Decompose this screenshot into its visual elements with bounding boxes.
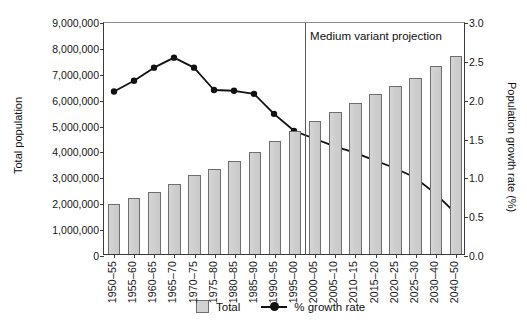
x-axis-tick — [275, 254, 276, 258]
bar-total-population — [309, 121, 321, 254]
y-axis-left-tick — [100, 49, 104, 50]
y-axis-left-tick — [100, 101, 104, 102]
x-axis-tick — [335, 254, 336, 258]
y-axis-left-tick-label: 9,000,000 — [52, 18, 99, 29]
y-axis-left-tick-label: 4,000,000 — [52, 147, 99, 158]
y-axis-right-tick — [464, 217, 468, 218]
x-axis-tick-label: 1985–90 — [248, 261, 259, 303]
x-axis-tick — [456, 254, 457, 258]
bar-total-population — [168, 184, 180, 254]
bar-total-population — [269, 141, 281, 254]
x-axis-tick — [396, 254, 397, 258]
x-axis-tick — [174, 254, 175, 258]
bar-total-population — [188, 175, 200, 254]
y-axis-left-tick-label: 1,000,000 — [52, 225, 99, 236]
x-axis-tick-label: 2040–50 — [449, 261, 460, 303]
x-axis-tick-label: 2010–15 — [348, 261, 359, 303]
bar-total-population — [409, 78, 421, 254]
growth-rate-point — [111, 88, 117, 94]
y-axis-left-tick — [100, 75, 104, 76]
x-axis-tick — [295, 254, 296, 258]
x-axis-tick-label: 1995–00 — [288, 261, 299, 303]
y-axis-right-tick — [464, 140, 468, 141]
x-axis-tick-label: 1960–65 — [147, 261, 158, 303]
x-axis-tick-label: 1950–55 — [107, 261, 118, 303]
x-axis-tick-label: 1955–60 — [127, 261, 138, 303]
x-axis-tick-label: 1975–80 — [208, 261, 219, 303]
x-axis-tick-label: 2025–30 — [409, 261, 420, 303]
y-axis-right-title: Population growth rate (%) — [502, 45, 518, 250]
x-axis-tick-label: 1980–85 — [228, 261, 239, 303]
bar-total-population — [430, 66, 442, 254]
bar-total-population — [450, 56, 462, 254]
growth-rate-point — [171, 54, 177, 60]
y-axis-left-tick-label: 3,000,000 — [52, 173, 99, 184]
growth-rate-point — [211, 87, 217, 93]
x-axis-tick — [235, 254, 236, 258]
bar-total-population — [208, 169, 220, 254]
x-axis-tick — [436, 254, 437, 258]
y-axis-right-tick — [464, 256, 468, 257]
x-axis-tick — [114, 254, 115, 258]
chart-legend: Total % growth rate — [196, 300, 365, 313]
growth-rate-point — [231, 88, 237, 94]
bar-total-population — [389, 86, 401, 254]
bar-total-population — [349, 103, 361, 254]
x-axis-tick-label: 2015–20 — [369, 261, 380, 303]
x-axis-tick — [195, 254, 196, 258]
x-axis-tick — [355, 254, 356, 258]
y-axis-right-tick-label: 0.0 — [469, 251, 484, 262]
projection-divider-line — [305, 23, 306, 254]
x-axis-tick-label: 2000–05 — [308, 261, 319, 303]
bar-total-population — [369, 94, 381, 255]
population-projection-chart: Total population Population growth rate … — [0, 0, 527, 328]
y-axis-left-tick-label: 2,000,000 — [52, 199, 99, 210]
x-axis-tick — [416, 254, 417, 258]
growth-rate-point — [191, 64, 197, 70]
plot-area: 01,000,0002,000,0003,000,0004,000,0005,0… — [103, 22, 465, 255]
x-axis-tick-label: 1990–95 — [268, 261, 279, 303]
y-axis-right-tick-label: 3.0 — [469, 18, 484, 29]
x-axis-tick — [215, 254, 216, 258]
y-axis-left-tick-label: 7,000,000 — [52, 70, 99, 81]
x-axis-tick-label: 2030–40 — [429, 261, 440, 303]
growth-rate-point — [251, 91, 257, 97]
y-axis-left-tick — [100, 178, 104, 179]
growth-rate-point — [131, 78, 137, 84]
y-axis-right-tick-label: 1.5 — [469, 134, 484, 145]
bar-total-population — [329, 112, 341, 254]
bar-total-population — [249, 152, 261, 254]
y-axis-left-tick-label: 5,000,000 — [52, 121, 99, 132]
bar-total-population — [128, 198, 140, 254]
x-axis-tick — [134, 254, 135, 258]
projection-annotation: Medium variant projection — [310, 30, 442, 42]
y-axis-left-tick — [100, 256, 104, 257]
y-axis-right-tick-label: 2.5 — [469, 57, 484, 68]
y-axis-left-tick — [100, 204, 104, 205]
y-axis-left-tick-label: 0 — [93, 251, 99, 262]
y-axis-right-tick — [464, 23, 468, 24]
y-axis-left-tick — [100, 230, 104, 231]
y-axis-left-title: Total population — [12, 60, 28, 210]
y-axis-right-tick-label: 1.0 — [469, 173, 484, 184]
growth-rate-point — [271, 111, 277, 117]
y-axis-left-tick-label: 8,000,000 — [52, 44, 99, 55]
x-axis-tick — [315, 254, 316, 258]
x-axis-tick — [376, 254, 377, 258]
bar-total-population — [289, 131, 301, 254]
x-axis-tick-label: 2005–10 — [328, 261, 339, 303]
y-axis-left-tick — [100, 23, 104, 24]
y-axis-right-tick-label: 2.0 — [469, 95, 484, 106]
y-axis-right-tick — [464, 101, 468, 102]
y-axis-right-tick — [464, 178, 468, 179]
growth-rate-point — [151, 64, 157, 70]
y-axis-left-tick-label: 6,000,000 — [52, 95, 99, 106]
x-axis-tick — [255, 254, 256, 258]
x-axis-tick — [154, 254, 155, 258]
x-axis-tick-label: 2020–25 — [389, 261, 400, 303]
x-axis-tick-label: 1970–75 — [188, 261, 199, 303]
bar-total-population — [108, 204, 120, 254]
x-axis-tick-label: 1965–70 — [167, 261, 178, 303]
y-axis-right-tick-label: 0.5 — [469, 212, 484, 223]
y-axis-right-tick — [464, 62, 468, 63]
